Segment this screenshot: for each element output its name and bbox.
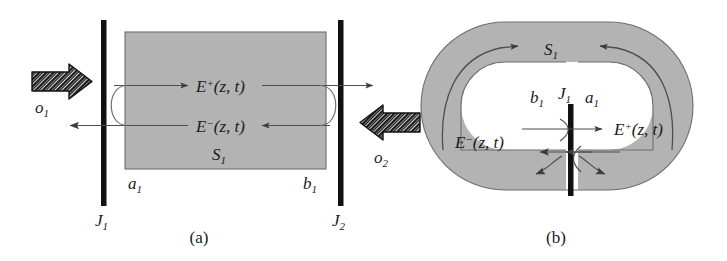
- panel-a-junction-j1-bar: [101, 20, 107, 206]
- panel-a-region-s1-fill: [125, 32, 326, 169]
- panel-a-junction-j2-label: J2: [332, 211, 346, 232]
- panel-b-field-forward-label: E+(z, t): [613, 120, 663, 139]
- panel-a-junction-j2-bar: [338, 20, 344, 206]
- panel-b-junction-j1-bar: [568, 104, 574, 196]
- panel-a-port-o1-label: o1: [35, 98, 49, 119]
- panel-b-field-backward-label: E−(z, t): [454, 133, 504, 152]
- panel-a-junction-j1-label: J1: [95, 211, 108, 232]
- panel-a-caption: (a): [190, 228, 209, 247]
- panel-a-port-o1-block-arrow: [32, 64, 92, 99]
- panel-b-region-s1-fill: [415, 16, 705, 216]
- panel-a-boundary-a1-label: a1: [128, 174, 142, 195]
- panel-a-field-forward-label: E+(z, t): [195, 77, 245, 96]
- panel-b-caption: (b): [546, 228, 566, 247]
- panel-a-field-backward-label: E−(z, t): [195, 117, 245, 136]
- panel-a-port-o2-block-arrow: [360, 105, 420, 140]
- panel-a-boundary-b1-label: b1: [303, 174, 317, 195]
- panel-a-port-o2-label: o2: [374, 148, 389, 169]
- panel-b: S1 E+(z, t) E−(z, t) b1 a1 J1 (b): [415, 16, 705, 247]
- panel-a: E+(z, t) E−(z, t) S1 o1 o2 a1 b1 J1 J2 (…: [32, 20, 420, 247]
- figure-svg: E+(z, t) E−(z, t) S1 o1 o2 a1 b1 J1 J2 (…: [0, 0, 727, 261]
- figure-container: E+(z, t) E−(z, t) S1 o1 o2 a1 b1 J1 J2 (…: [0, 0, 727, 261]
